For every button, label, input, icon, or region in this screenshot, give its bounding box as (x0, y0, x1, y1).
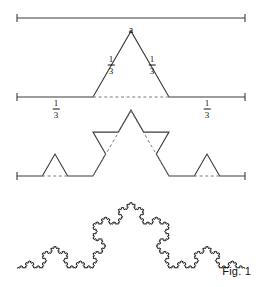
fraction-denominator: 3 (204, 110, 211, 120)
fraction-label: 13 (204, 99, 211, 120)
fraction-numerator: 1 (53, 99, 60, 110)
fraction-denominator: 3 (53, 110, 60, 120)
fraction-numerator: 1 (204, 99, 211, 110)
figure-caption: Fig. 1 (222, 265, 251, 277)
fraction-denominator: 3 (108, 66, 115, 76)
koch-curve-figure (0, 0, 261, 287)
fraction-label: 13 (108, 55, 115, 76)
fraction-label: 13 (53, 99, 60, 120)
figure-background (0, 0, 261, 287)
segment-length-label: a (129, 24, 133, 35)
fraction-numerator: 1 (149, 55, 156, 66)
fraction-label: 13 (149, 55, 156, 76)
fraction-denominator: 3 (149, 66, 156, 76)
fraction-numerator: 1 (108, 55, 115, 66)
